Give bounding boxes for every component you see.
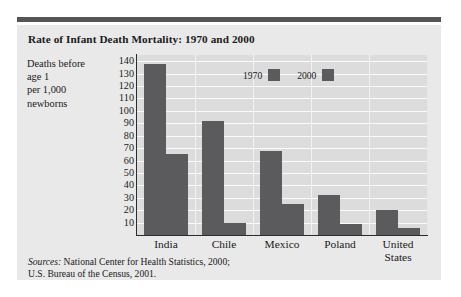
y-tick-label: 80 [110, 131, 134, 141]
figure: Rate of Infant Death Mortality: 1970 and… [0, 0, 461, 297]
bar [318, 195, 340, 235]
sources-note: Sources: National Center for Health Stat… [28, 256, 428, 279]
legend-label-1970: 1970 [243, 70, 262, 81]
y-tick-label: 140 [110, 56, 134, 66]
bar [260, 151, 282, 235]
bar [202, 121, 224, 235]
y-axis-caption-line: newborns [27, 97, 119, 110]
category-separator [253, 55, 254, 235]
y-axis-line [136, 54, 137, 236]
bar [340, 224, 362, 235]
y-tick-label: 60 [110, 156, 134, 166]
y-axis-caption-line: per 1,000 [27, 83, 119, 96]
y-axis-tick-labels: 140130120110100908070605040302010 [108, 55, 134, 235]
y-axis-caption: Deaths before age 1 per 1,000 newborns [27, 57, 119, 110]
x-tick-label: India [137, 238, 195, 251]
gridline [137, 136, 427, 137]
y-axis-caption-line: age 1 [27, 70, 119, 83]
x-tick-label: Poland [311, 238, 369, 251]
x-tick-label-line: Chile [195, 238, 253, 251]
y-tick-label: 100 [110, 106, 134, 116]
y-tick-label: 120 [110, 81, 134, 91]
y-tick-label: 130 [110, 69, 134, 79]
x-tick-label-line: Poland [311, 238, 369, 251]
bar [166, 154, 188, 235]
x-tick-label: Mexico [253, 238, 311, 251]
sources-line-1: National Center for Health Statistics, 2… [61, 256, 230, 267]
gridline [137, 148, 427, 149]
category-separator [311, 55, 312, 235]
bar [376, 210, 398, 235]
bar [398, 228, 420, 235]
legend-swatch-1970 [268, 69, 280, 81]
sources-prefix: Sources: [28, 256, 61, 267]
gridline [137, 123, 427, 124]
y-tick-label: 70 [110, 143, 134, 153]
gridline [137, 98, 427, 99]
x-axis-line [136, 235, 428, 236]
top-rule [17, 17, 441, 22]
x-tick-label: Chile [195, 238, 253, 251]
y-tick-label: 110 [110, 93, 134, 103]
x-tick-label-line: Mexico [253, 238, 311, 251]
x-tick-label-line: India [137, 238, 195, 251]
category-separator [195, 55, 196, 235]
gridline [137, 61, 427, 62]
bar [282, 204, 304, 235]
legend-label-2000: 2000 [297, 70, 316, 81]
bar [224, 223, 246, 235]
y-tick-label: 10 [110, 218, 134, 228]
gridline [137, 111, 427, 112]
y-tick-label: 20 [110, 205, 134, 215]
gridline [137, 86, 427, 87]
legend: 1970 2000 [243, 68, 334, 82]
y-tick-label: 90 [110, 118, 134, 128]
x-tick-label-line: United [369, 238, 427, 251]
y-tick-label: 30 [110, 193, 134, 203]
y-tick-label: 50 [110, 168, 134, 178]
sources-line-2: U.S. Bureau of the Census, 2001. [28, 268, 156, 279]
y-axis-caption-line: Deaths before [27, 57, 119, 70]
category-separator [369, 55, 370, 235]
plot-area [137, 55, 427, 235]
legend-swatch-2000 [322, 69, 334, 81]
chart-title: Rate of Infant Death Mortality: 1970 and… [28, 33, 255, 45]
bar [144, 64, 166, 235]
y-tick-label: 40 [110, 180, 134, 190]
